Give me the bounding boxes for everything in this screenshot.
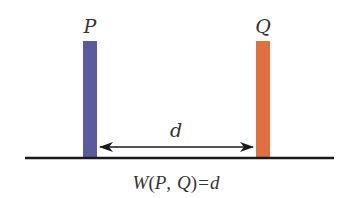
bar-p [83,41,97,158]
label-distance: d [170,119,182,141]
formula-q: Q [177,172,191,193]
formula-close-paren: ) [191,172,197,194]
wasserstein-distance-diagram: P Q d W(P,Q)=d [0,0,354,198]
formula-d: d [210,172,220,193]
formula: W(P,Q)=d [133,172,220,194]
formula-p: P [154,172,167,193]
label-p: P [83,15,98,37]
formula-comma: , [166,172,171,193]
bar-q [256,41,270,158]
formula-equals: = [198,172,209,193]
label-q: Q [255,15,271,37]
